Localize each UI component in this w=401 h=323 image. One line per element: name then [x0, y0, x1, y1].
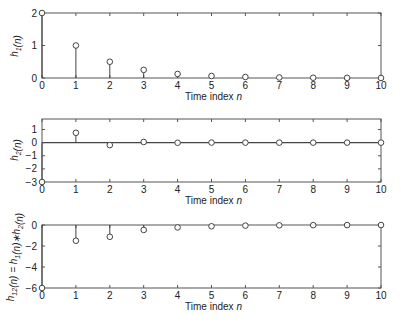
- stem-marker: [378, 222, 384, 228]
- stem-marker: [277, 223, 283, 229]
- stem-marker: [277, 140, 283, 146]
- x-tick-label: 9: [344, 290, 350, 301]
- x-axis-label: Time index n: [185, 195, 242, 206]
- stem-marker: [243, 140, 249, 146]
- stem-marker: [39, 285, 45, 291]
- stem-marker: [277, 75, 283, 81]
- x-tick-label: 6: [243, 184, 249, 195]
- stem-marker: [175, 225, 181, 231]
- x-tick-label: 9: [344, 184, 350, 195]
- x-tick-label: 0: [39, 80, 45, 91]
- y-tick-label: 0: [31, 137, 37, 148]
- x-tick-label: 9: [344, 80, 350, 91]
- stem-marker: [378, 75, 384, 81]
- x-tick-label: 4: [175, 290, 181, 301]
- x-tick-label: 1: [73, 80, 79, 91]
- stem-marker: [141, 67, 147, 73]
- x-tick-label: 0: [39, 290, 45, 301]
- x-tick-label: 3: [141, 80, 147, 91]
- x-tick-label: 2: [107, 290, 113, 301]
- stem-marker: [209, 223, 215, 229]
- stem-marker: [141, 227, 147, 233]
- stem-marker: [243, 223, 249, 229]
- x-tick-label: 0: [39, 184, 45, 195]
- x-tick-label: 1: [73, 184, 79, 195]
- y-tick-label: −2: [26, 163, 38, 174]
- y-tick-label: 0: [31, 73, 37, 84]
- y-tick-label: −1: [26, 150, 38, 161]
- x-tick-label: 2: [107, 184, 113, 195]
- y-tick-label: 2: [31, 8, 37, 19]
- x-axis-label: Time index n: [185, 91, 242, 102]
- stem-marker: [107, 234, 113, 240]
- x-tick-label: 10: [375, 80, 387, 91]
- x-tick-label: 2: [107, 80, 113, 91]
- stem-marker: [209, 73, 215, 79]
- x-tick-label: 7: [277, 184, 283, 195]
- plot-h2: 01234567891010−1−2−3Time index nh2(n): [9, 119, 387, 206]
- x-tick-label: 4: [175, 184, 181, 195]
- x-tick-label: 5: [209, 184, 215, 195]
- stem-marker: [73, 238, 79, 244]
- stem-marker: [73, 43, 79, 49]
- stem-marker: [310, 140, 316, 146]
- stem-plots-figure: 012345678910012Time index nh1(n) 0123456…: [0, 0, 401, 323]
- x-tick-label: 7: [277, 80, 283, 91]
- x-axis-label: Time index n: [185, 301, 242, 312]
- stem-marker: [39, 10, 45, 16]
- x-tick-label: 4: [175, 80, 181, 91]
- stem-marker: [107, 142, 113, 148]
- y-tick-label: −4: [26, 262, 38, 273]
- plot-frame: [42, 13, 381, 78]
- plot-h12: 0123456789100−2−4−6Time index nh12(n) = …: [5, 213, 387, 312]
- y-tick-label: 1: [31, 40, 37, 51]
- stem-marker: [107, 59, 113, 65]
- y-tick-label: −3: [26, 177, 38, 188]
- x-tick-label: 10: [375, 184, 387, 195]
- stem-marker: [243, 74, 249, 80]
- x-tick-label: 6: [243, 80, 249, 91]
- x-tick-label: 7: [277, 290, 283, 301]
- x-tick-label: 5: [209, 290, 215, 301]
- y-axis-label: h1(n): [9, 35, 23, 57]
- x-tick-label: 3: [141, 290, 147, 301]
- y-axis-label: h12(n) = h1(n)∗h2(n): [5, 213, 25, 301]
- stem-marker: [344, 222, 350, 228]
- x-tick-label: 5: [209, 80, 215, 91]
- stem-marker: [209, 140, 215, 146]
- stem-marker: [175, 140, 181, 146]
- stem-marker: [141, 139, 147, 145]
- stem-marker: [310, 222, 316, 228]
- x-tick-label: 3: [141, 184, 147, 195]
- plot-frame: [42, 119, 381, 182]
- stem-marker: [344, 75, 350, 81]
- stem-marker: [73, 130, 79, 136]
- x-tick-label: 6: [243, 290, 249, 301]
- x-tick-label: 1: [73, 290, 79, 301]
- stem-marker: [175, 71, 181, 77]
- x-tick-label: 10: [375, 290, 387, 301]
- stem-marker: [378, 140, 384, 146]
- y-tick-label: 1: [31, 124, 37, 135]
- stem-marker: [344, 140, 350, 146]
- plot-frame: [42, 225, 381, 288]
- x-tick-label: 8: [310, 290, 316, 301]
- plot-h1: 012345678910012Time index nh1(n): [9, 8, 387, 103]
- x-tick-label: 8: [310, 80, 316, 91]
- y-axis-label: h2(n): [9, 139, 23, 161]
- y-tick-label: 0: [31, 220, 37, 231]
- x-tick-label: 8: [310, 184, 316, 195]
- stem-marker: [310, 75, 316, 81]
- stem-marker: [39, 179, 45, 185]
- y-tick-label: −2: [26, 241, 38, 252]
- y-tick-label: −6: [26, 283, 38, 294]
